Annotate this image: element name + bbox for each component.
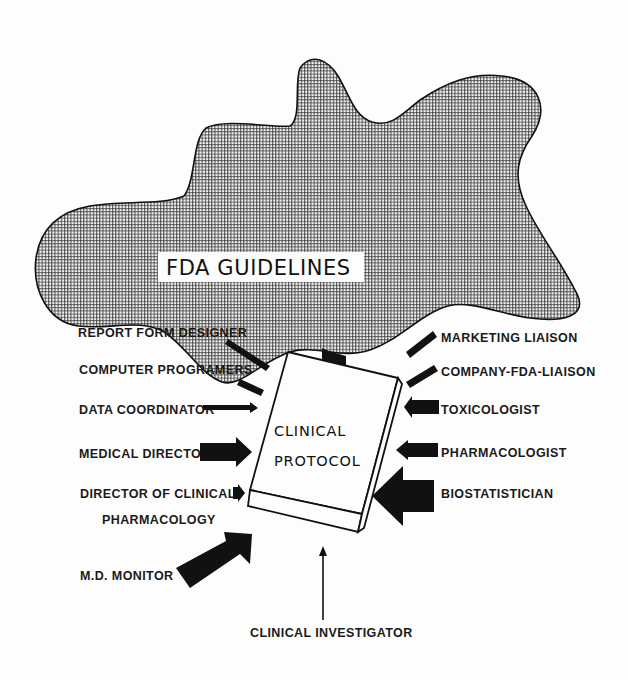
arrow-biostatistician-icon bbox=[372, 466, 434, 526]
label-biostatistician: BIOSTATISTICIAN bbox=[441, 487, 553, 501]
label-director-clinical-pharm-1: DIRECTOR OF CLINICAL bbox=[80, 487, 236, 501]
arrow-clinical-investigator-icon bbox=[319, 546, 327, 556]
clinical-protocol-book: CLINICAL PROTOCOL bbox=[248, 352, 402, 532]
label-clinical-investigator: CLINICAL INVESTIGATOR bbox=[250, 626, 413, 640]
label-marketing-liaison: MARKETING LIAISON bbox=[441, 331, 578, 345]
label-toxicologist: TOXICOLOGIST bbox=[441, 403, 540, 417]
book-title-line2: PROTOCOL bbox=[274, 453, 361, 469]
influence-diagram: FDA GUIDELINES CLINICAL PROTOCOL REPORT … bbox=[0, 0, 628, 679]
book-title-line1: CLINICAL bbox=[274, 423, 346, 439]
arrow-md-monitor-icon bbox=[176, 532, 252, 588]
label-pharmacologist: PHARMACOLOGIST bbox=[441, 446, 567, 460]
arrow-marketing-liaison-icon bbox=[406, 331, 437, 358]
cloud-label: FDA GUIDELINES bbox=[166, 256, 351, 280]
label-medical-director: MEDICAL DIRECTOR bbox=[79, 447, 211, 461]
label-computer-programers: COMPUTER PROGRAMERS bbox=[79, 363, 253, 377]
label-director-clinical-pharm-2: PHARMACOLOGY bbox=[102, 513, 216, 527]
label-md-monitor: M.D. MONITOR bbox=[80, 569, 173, 583]
arrow-toxicologist-icon bbox=[404, 396, 439, 418]
arrow-pharmacologist-icon bbox=[396, 440, 438, 460]
label-data-coordinator: DATA COORDINATOR bbox=[79, 403, 215, 417]
arrow-company-fda-liaison-icon bbox=[406, 365, 438, 388]
label-company-fda-liaison: COMPANY-FDA-LIAISON bbox=[441, 365, 596, 379]
label-report-form-designer: REPORT FORM DESIGNER bbox=[78, 326, 247, 340]
arrow-computer-programers-icon bbox=[237, 379, 264, 396]
arrow-medical-director-icon bbox=[200, 437, 252, 467]
